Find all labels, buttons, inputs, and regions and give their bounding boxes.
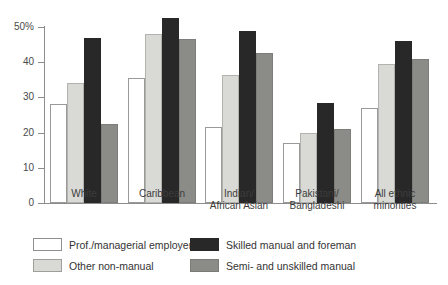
y-axis-tick	[38, 203, 44, 204]
light-gray-swatch	[33, 259, 62, 272]
x-axis-category-label: All ethnicminorities	[345, 188, 445, 211]
bar-group-bars	[361, 20, 429, 203]
white-swatch	[33, 238, 62, 251]
bar-group-bars	[128, 20, 196, 203]
y-axis-tick-label: 50%	[0, 22, 34, 32]
black-swatch	[190, 238, 219, 251]
bar-group-bars	[205, 20, 273, 203]
medium-gray-swatch	[190, 259, 219, 272]
bar-chart: 01020304050% WhiteCaribbeanIndian/Africa…	[0, 0, 448, 215]
plot-area	[44, 20, 437, 203]
y-axis-tick-label: 20	[0, 128, 34, 138]
bar	[179, 39, 196, 203]
bar	[256, 53, 273, 203]
x-axis-category-label-line: minorities	[345, 200, 445, 212]
legend-item-label: Other non-manual	[69, 260, 154, 272]
y-axis-tick-label: 30	[0, 92, 34, 102]
bar	[145, 34, 162, 203]
bar	[395, 41, 412, 203]
bar	[162, 18, 179, 203]
chart-legend: Prof./managerial employersOther non-manu…	[0, 238, 448, 282]
bar	[84, 38, 101, 203]
bar	[239, 31, 256, 203]
bar	[222, 75, 239, 203]
bar	[412, 59, 429, 203]
legend-item[interactable]: Other non-manual	[33, 259, 154, 272]
bar-group-bars	[283, 20, 351, 203]
y-axis-tick-label: 40	[0, 57, 34, 67]
bar	[128, 78, 145, 203]
legend-item[interactable]: Prof./managerial employers	[33, 238, 197, 251]
legend-item-label: Prof./managerial employers	[69, 239, 197, 251]
x-axis-category-label-line: All ethnic	[345, 188, 445, 200]
y-axis-tick-label: 10	[0, 163, 34, 173]
legend-item-label: Skilled manual and foreman	[226, 239, 356, 251]
bar-group-bars	[50, 20, 118, 203]
legend-item[interactable]: Skilled manual and foreman	[190, 238, 356, 251]
y-axis-tick-label: 0	[0, 198, 34, 208]
bar	[67, 83, 84, 203]
legend-item-label: Semi- and unskilled manual	[226, 260, 355, 272]
legend-item[interactable]: Semi- and unskilled manual	[190, 259, 355, 272]
bar	[378, 64, 395, 203]
